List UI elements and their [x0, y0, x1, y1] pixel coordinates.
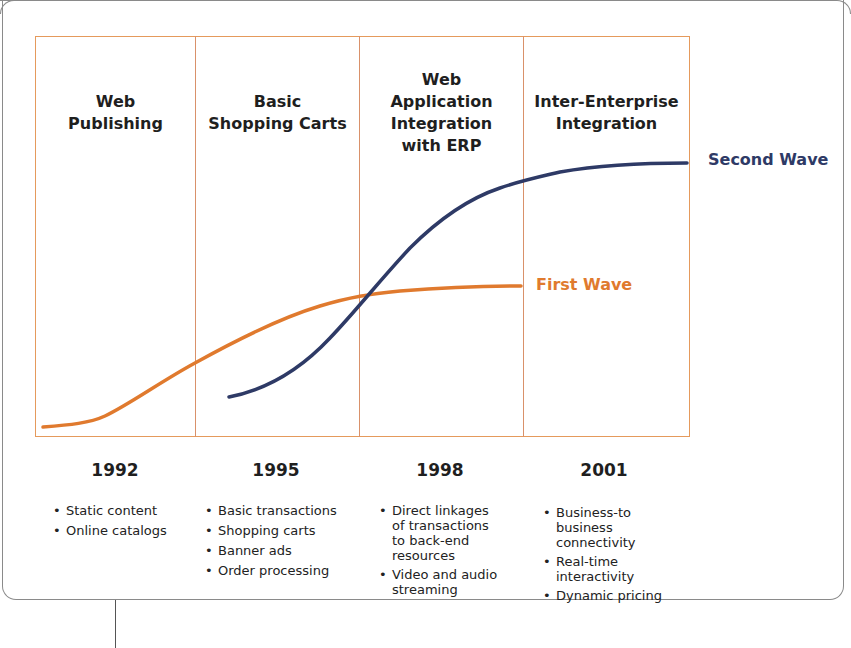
feature-list-1995: Basic transactions Shopping carts Banner…	[205, 503, 355, 583]
list-item: Shopping carts	[205, 523, 355, 539]
list-item: Online catalogs	[53, 523, 193, 539]
list-item: Video and audio streaming	[379, 567, 504, 597]
list-item: Static content	[53, 503, 193, 519]
first-wave-curve	[43, 286, 521, 427]
list-item: Business-to business connectivity	[543, 505, 668, 550]
feature-list-2001: Business-to business connectivity Real-t…	[543, 505, 668, 607]
list-item: Dynamic pricing	[543, 588, 668, 603]
second-wave-label: Second Wave	[708, 150, 828, 169]
year-label-1992: 1992	[55, 460, 175, 480]
first-wave-label: First Wave	[536, 275, 632, 294]
feature-list-1992: Static content Online catalogs	[53, 503, 193, 543]
feature-list-1998: Direct linkages of transactions to back-…	[379, 503, 504, 601]
list-item: Banner ads	[205, 543, 355, 559]
list-item: Basic transactions	[205, 503, 355, 519]
year-label-1995: 1995	[216, 460, 336, 480]
year-label-1998: 1998	[380, 460, 500, 480]
list-item: Direct linkages of transactions to back-…	[379, 503, 504, 563]
list-item: Real-time interactivity	[543, 554, 668, 584]
year-label-2001: 2001	[544, 460, 664, 480]
list-item: Order processing	[205, 563, 355, 579]
